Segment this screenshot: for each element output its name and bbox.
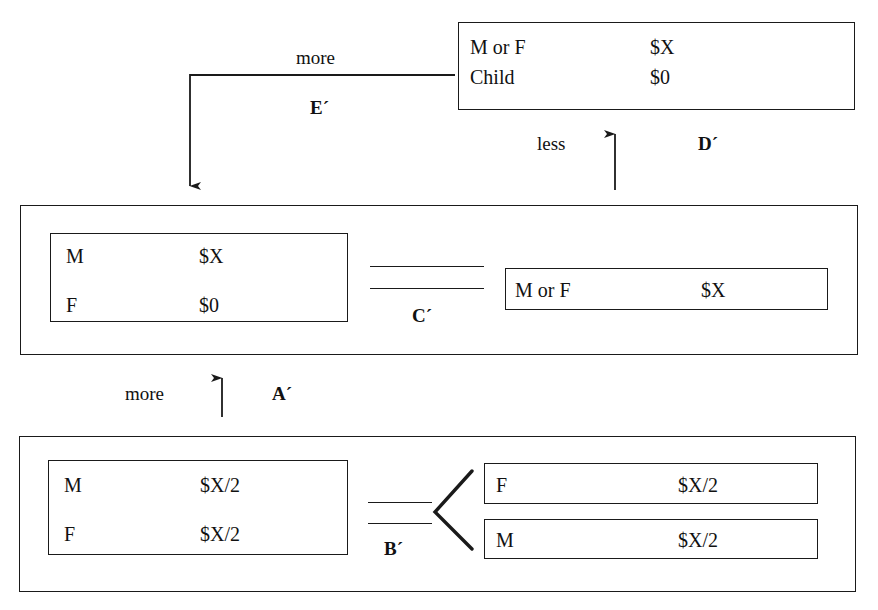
b-prime-connector-rule-top [368,502,432,503]
bottom-right-row-1: F $X/2 [496,472,806,498]
bottom-right-row-2: M $X/2 [496,527,806,553]
bottom-left-row-2-label: F [64,524,200,544]
a-prime-qualifier-label: more [125,384,164,403]
middle-right-row-1-label: M or F [515,280,701,300]
middle-left-row-2: F $0 [66,292,336,318]
top-box-row-1-value: $X [650,37,674,57]
middle-left-row-2-value: $0 [199,295,219,315]
middle-left-row-1-label: M [66,246,199,266]
d-prime-label: D´ [698,134,718,153]
e-prime-arrow [190,75,455,186]
bottom-right-row-1-label: F [496,475,678,495]
middle-right-row-1-value: $X [701,280,725,300]
top-box-row-2-value: $0 [650,67,670,87]
bottom-right-row-2-value: $X/2 [678,530,718,550]
c-prime-connector-rule-bottom [370,288,484,289]
top-box-row-2: Child $0 [470,64,840,90]
bottom-right-row-2-label: M [496,530,678,550]
bottom-left-row-1-label: M [64,475,200,495]
b-prime-label: B´ [384,539,403,558]
middle-left-row-1: M $X [66,243,336,269]
middle-left-row-2-label: F [66,295,199,315]
top-box-row-2-label: Child [470,67,650,87]
top-box-row-1-label: M or F [470,37,650,57]
bottom-right-row-1-value: $X/2 [678,475,718,495]
a-prime-label: A´ [272,384,292,403]
e-prime-label: E´ [310,98,329,117]
d-prime-qualifier-label: less [537,134,566,153]
c-prime-label: C´ [412,306,432,325]
b-prime-connector-rule-bottom [368,523,432,524]
bottom-left-row-2-value: $X/2 [200,524,240,544]
bottom-left-row-1-value: $X/2 [200,475,240,495]
middle-left-row-1-value: $X [199,246,223,266]
c-prime-connector-rule-top [370,266,484,267]
bottom-left-row-2: F $X/2 [64,521,339,547]
middle-right-row-1: M or F $X [515,277,815,303]
bottom-left-row-1: M $X/2 [64,472,339,498]
diagram-canvas: M or F $X Child $0 more E´ M $X F $0 C´ … [0,0,878,610]
top-box-row-1: M or F $X [470,34,840,60]
e-prime-qualifier-label: more [296,48,335,67]
